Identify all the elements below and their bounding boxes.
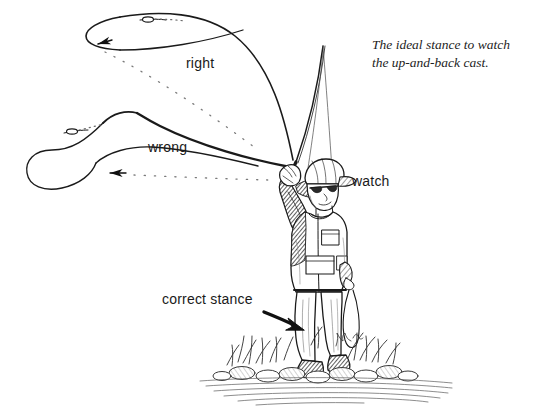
- wrong-loop-tippet: [79, 124, 104, 130]
- fly-casting-illustration: right wrong watch correct stance The ide…: [0, 0, 550, 408]
- right-loop-direction-arrow: [98, 40, 112, 44]
- illustration-caption: The ideal stance to watch the up-and-bac…: [372, 36, 532, 72]
- caption-line-1: The ideal stance to watch: [372, 36, 532, 54]
- wrong-loop-fly: [67, 129, 78, 134]
- head: [305, 159, 356, 216]
- wrong-cast-trail: [134, 175, 268, 180]
- annotation-label-wrong: wrong: [148, 139, 187, 155]
- caption-line-2: the up-and-back cast.: [372, 54, 532, 72]
- right-loop-fly: [143, 17, 154, 22]
- annotation-label-watch: watch: [352, 173, 390, 189]
- vest-lower-pocket: [306, 256, 334, 274]
- casting-hand: [280, 165, 301, 186]
- vest-chest-pocket: [322, 230, 339, 245]
- angler-figure: [279, 159, 359, 378]
- fly-rod: [289, 46, 325, 178]
- fishing-vest: [291, 212, 347, 292]
- trousers: [294, 290, 346, 362]
- annotation-label-correct-stance: correct stance: [162, 291, 253, 307]
- annotation-label-right: right: [186, 55, 214, 71]
